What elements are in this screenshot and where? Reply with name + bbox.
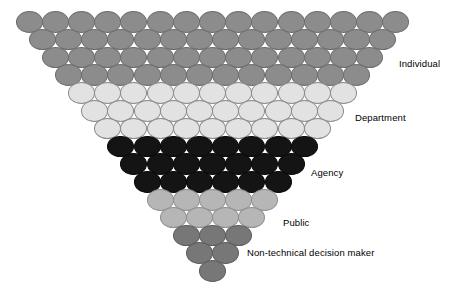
pyramid-node-non-technical-decision-maker: [199, 260, 226, 282]
pyramid-circle-grid: [0, 0, 460, 295]
group-label-agency: Agency: [311, 167, 343, 178]
pyramid-diagram: Individual Department Agency Public Non-…: [0, 0, 460, 295]
group-label-department: Department: [355, 112, 406, 123]
group-label-individual: Individual: [399, 58, 440, 69]
group-label-public: Public: [283, 217, 309, 228]
group-label-non-technical-decision-maker: Non-technical decision maker: [247, 247, 374, 258]
